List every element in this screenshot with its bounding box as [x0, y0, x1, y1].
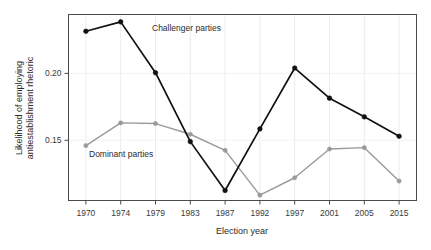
data-point-marker — [118, 20, 123, 25]
series-label-dominant-parties: Dominant parties — [89, 149, 153, 159]
x-tick-label: 1970 — [76, 208, 95, 218]
x-tick-label: 2001 — [320, 208, 339, 218]
y-axis-title-line-2: antiestablishment rhetoric — [25, 56, 35, 159]
series-label-challenger-parties: Challenger parties — [152, 23, 221, 33]
data-point-marker — [327, 147, 331, 151]
x-tick-label: 1979 — [146, 208, 165, 218]
x-tick-label: 1987 — [216, 208, 235, 218]
x-tick-label: 1997 — [285, 208, 304, 218]
data-point-marker — [258, 193, 262, 197]
data-point-marker — [119, 121, 123, 125]
data-point-marker — [397, 134, 402, 139]
data-point-marker — [292, 66, 297, 71]
data-point-marker — [327, 96, 332, 101]
data-point-marker — [84, 29, 89, 34]
x-tick-label: 2005 — [355, 208, 374, 218]
data-point-marker — [258, 127, 263, 132]
data-point-marker — [84, 144, 88, 148]
line-chart: 0.150.20 1970197419791983198719921997200… — [0, 0, 431, 250]
data-point-marker — [223, 188, 228, 193]
x-tick-label: 1992 — [250, 208, 269, 218]
data-point-marker — [362, 115, 367, 120]
chart-figure: 0.150.20 1970197419791983198719921997200… — [0, 0, 431, 250]
data-point-marker — [153, 121, 157, 125]
data-point-marker — [397, 179, 401, 183]
data-point-marker — [153, 70, 158, 75]
x-tick-label: 1983 — [181, 208, 200, 218]
data-point-marker — [188, 132, 192, 136]
y-tick-label: 0.15 — [45, 135, 62, 145]
x-tick-label: 1974 — [111, 208, 130, 218]
data-point-marker — [188, 139, 193, 144]
data-point-marker — [223, 148, 227, 152]
x-axis-title: Election year — [216, 226, 268, 236]
x-tick-label: 2015 — [390, 208, 409, 218]
y-tick-label: 0.20 — [45, 68, 62, 78]
data-point-marker — [293, 176, 297, 180]
data-point-marker — [362, 146, 366, 150]
y-axis-title-line-1: Likelihood of employing — [14, 61, 24, 155]
